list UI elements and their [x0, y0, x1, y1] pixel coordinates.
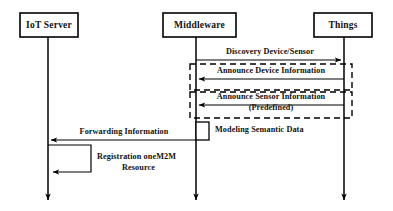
- participant-label-middleware: Middleware: [174, 20, 225, 30]
- participant-label-iot-server: IoT Server: [26, 20, 72, 30]
- self-message-registration-onem2m-resource[interactable]: Registration oneM2M Resource: [48, 145, 176, 172]
- participant-iot-server[interactable]: IoT Server: [20, 13, 78, 37]
- activation-label-modeling-semantic-data: Modeling Semantic Data: [215, 125, 304, 134]
- message-announce-sensor-information[interactable]: Announce Sensor Information (Predefined): [199, 92, 344, 112]
- sequence-diagram: Discovery Device/Sensor Announce Device …: [0, 0, 393, 211]
- participant-label-things: Things: [328, 20, 357, 30]
- message-label-discovery-device-sensor: Discovery Device/Sensor: [226, 47, 314, 56]
- participants-group: IoT Server Middleware Things: [20, 13, 372, 37]
- self-message-label-resource: Resource: [122, 163, 155, 172]
- message-label-announce-sensor-information-predefined: (Predefined): [249, 103, 294, 112]
- message-label-forwarding-information: Forwarding Information: [80, 127, 169, 136]
- sequence-diagram-canvas: Discovery Device/Sensor Announce Device …: [0, 0, 393, 211]
- self-message-label-registration-onem2m: Registration oneM2M: [97, 152, 176, 161]
- participant-things[interactable]: Things: [314, 13, 372, 37]
- activation-modeling-semantic-data: Modeling Semantic Data: [196, 122, 304, 140]
- message-label-announce-device-information: Announce Device Information: [217, 66, 326, 75]
- self-message-arrow-registration-onem2m-resource: [48, 145, 91, 172]
- message-announce-device-information[interactable]: Announce Device Information: [199, 66, 344, 79]
- activation-bar-middleware: [196, 122, 209, 140]
- message-discovery-device-sensor[interactable]: Discovery Device/Sensor: [196, 47, 341, 60]
- message-forwarding-information[interactable]: Forwarding Information: [51, 127, 196, 140]
- message-label-announce-sensor-information: Announce Sensor Information: [217, 92, 326, 101]
- participant-middleware[interactable]: Middleware: [163, 13, 236, 37]
